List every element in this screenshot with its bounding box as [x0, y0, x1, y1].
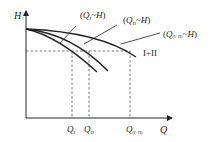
- y-axis-label: H: [13, 10, 22, 21]
- pump-characteristic-diagram: H Q (QI~H) (QII~H) (Q(I+II)~H) I+II QI Q…: [0, 0, 224, 142]
- tick-q2: QII: [84, 124, 94, 135]
- leader-I+II: [121, 33, 160, 44]
- leader-II: [84, 25, 117, 44]
- curve-pump-I: [26, 29, 97, 72]
- curve-pump-I+II: [26, 29, 136, 57]
- curve-label-I: (QI~H): [80, 10, 106, 21]
- curve-label-I+II: (Q(I+II)~H): [163, 29, 197, 39]
- tick-q12: Q(I+II): [126, 124, 143, 135]
- curve-label-II: (QII~H): [123, 15, 150, 26]
- operating-point-label: I+II: [143, 48, 157, 58]
- tick-q1: QI: [67, 124, 76, 135]
- x-axis-label: Q: [160, 124, 168, 135]
